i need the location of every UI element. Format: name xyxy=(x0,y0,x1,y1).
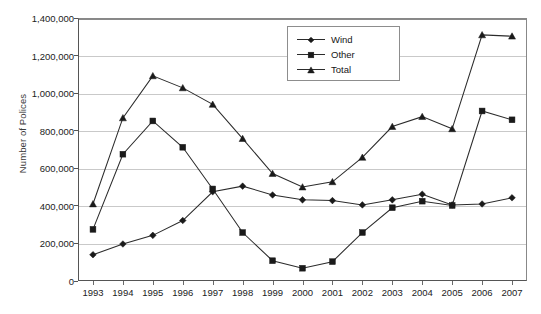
gridline xyxy=(79,244,526,245)
y-tick-label: 1,200,000 xyxy=(2,50,74,61)
x-tick-mark xyxy=(183,281,184,285)
x-tick-label: 2003 xyxy=(382,287,403,298)
x-tick-label: 2002 xyxy=(352,287,373,298)
y-tick-mark xyxy=(74,55,78,56)
y-tick-label: 1,400,000 xyxy=(2,13,74,24)
x-tick-label: 1996 xyxy=(172,287,193,298)
x-tick-mark xyxy=(273,281,274,285)
x-tick-mark xyxy=(362,281,363,285)
x-tick-mark xyxy=(153,281,154,285)
gridline xyxy=(79,94,526,95)
x-tick-mark xyxy=(213,281,214,285)
y-tick-mark xyxy=(74,168,78,169)
x-tick-mark xyxy=(452,281,453,285)
legend-label-total: Total xyxy=(325,64,351,75)
x-tick-label: 1998 xyxy=(232,287,253,298)
x-tick-mark xyxy=(243,281,244,285)
y-tick-mark xyxy=(74,130,78,131)
legend-marker-triangle-icon xyxy=(297,64,325,76)
y-tick-label: 800,000 xyxy=(2,125,74,136)
y-tick-label: 200,000 xyxy=(2,238,74,249)
legend-marker-square-icon xyxy=(297,49,325,61)
x-tick-mark xyxy=(123,281,124,285)
legend-label-wind: Wind xyxy=(325,34,353,45)
x-tick-label: 1994 xyxy=(112,287,133,298)
x-tick-label: 2005 xyxy=(442,287,463,298)
y-tick-label: 1,000,000 xyxy=(2,88,74,99)
y-tick-label: 0 xyxy=(2,276,74,287)
x-tick-mark xyxy=(512,281,513,285)
x-tick-mark xyxy=(482,281,483,285)
gridline xyxy=(79,169,526,170)
x-tick-label: 1999 xyxy=(262,287,283,298)
legend-label-other: Other xyxy=(325,49,355,60)
x-tick-label: 2007 xyxy=(501,287,522,298)
y-tick-label: 400,000 xyxy=(2,200,74,211)
y-tick-mark xyxy=(74,93,78,94)
legend-item-total: Total xyxy=(297,62,399,77)
x-tick-mark xyxy=(392,281,393,285)
x-tick-label: 1993 xyxy=(82,287,103,298)
y-tick-mark xyxy=(74,281,78,282)
x-tick-label: 1995 xyxy=(142,287,163,298)
x-tick-label: 2000 xyxy=(292,287,313,298)
x-tick-label: 2001 xyxy=(322,287,343,298)
y-tick-mark xyxy=(74,243,78,244)
gridline xyxy=(79,131,526,132)
x-tick-label: 2004 xyxy=(412,287,433,298)
x-tick-label: 2006 xyxy=(472,287,493,298)
legend-item-other: Other xyxy=(297,47,399,62)
gridline xyxy=(79,19,526,20)
y-tick-label: 600,000 xyxy=(2,163,74,174)
gridline xyxy=(79,206,526,207)
x-tick-mark xyxy=(422,281,423,285)
y-tick-mark xyxy=(74,18,78,19)
legend-item-wind: Wind xyxy=(297,32,399,47)
legend-marker-diamond-icon xyxy=(297,34,325,46)
x-tick-mark xyxy=(93,281,94,285)
line-chart: Number of Polices 0200,000400,000600,000… xyxy=(0,0,541,314)
x-tick-mark xyxy=(303,281,304,285)
y-tick-mark xyxy=(74,205,78,206)
chart-legend: Wind Other Total xyxy=(287,26,400,81)
x-tick-label: 1997 xyxy=(202,287,223,298)
x-tick-mark xyxy=(332,281,333,285)
